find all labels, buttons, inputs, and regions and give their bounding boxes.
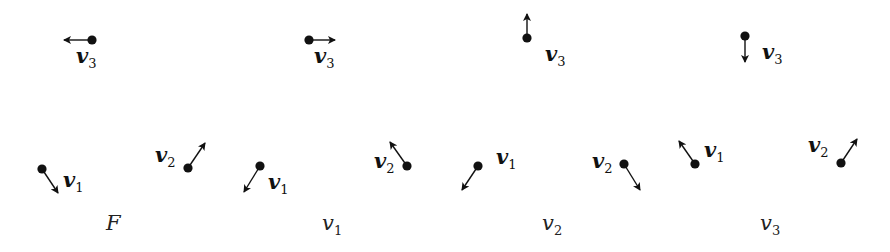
vertex-dot-icon bbox=[522, 33, 531, 42]
vertex-label: v2 bbox=[592, 148, 612, 176]
vertex-dot-icon bbox=[690, 159, 699, 168]
vertex-v2: v2 bbox=[155, 142, 205, 173]
panel-caption: v1 bbox=[322, 211, 342, 238]
vertex-v3: v3 bbox=[740, 31, 782, 67]
vertex-label: v3 bbox=[314, 43, 334, 71]
vertex-dot-icon bbox=[473, 161, 482, 170]
vertex-dot-icon bbox=[836, 158, 845, 167]
panel-caption: F bbox=[105, 211, 122, 235]
vertex-label: v1 bbox=[496, 144, 516, 172]
vertex-label: v3 bbox=[545, 41, 565, 69]
vertex-label: v2 bbox=[808, 132, 828, 160]
vertex-v3: v3 bbox=[304, 35, 335, 71]
panel-caption: v3 bbox=[760, 211, 780, 238]
vertex-v2: v2 bbox=[592, 148, 640, 190]
vertex-v2: v2 bbox=[374, 142, 412, 176]
vertex-dot-icon bbox=[304, 35, 313, 44]
panel-caption: v2 bbox=[542, 211, 562, 238]
panel-1: v1v2v3F bbox=[37, 35, 205, 235]
vertex-dot-icon bbox=[255, 161, 264, 170]
vertex-label: v1 bbox=[704, 137, 724, 165]
vertex-dot-icon bbox=[37, 164, 46, 173]
vertex-dot-icon bbox=[87, 35, 96, 44]
vertex-v1: v1 bbox=[462, 144, 516, 190]
vertex-dot-icon bbox=[183, 163, 192, 172]
panels: v1v2v3Fv1v2v3v1v1v2v3v2v1v2v3v3 bbox=[37, 14, 857, 238]
vertex-dot-icon bbox=[740, 31, 749, 40]
vertex-v1: v1 bbox=[679, 137, 724, 169]
vertex-label: v2 bbox=[155, 142, 175, 170]
vertex-v2: v2 bbox=[808, 132, 857, 168]
diagram-canvas: v1v2v3Fv1v2v3v1v1v2v3v2v1v2v3v3 bbox=[0, 0, 890, 252]
panel-2: v1v2v3v1 bbox=[244, 35, 412, 238]
vertex-label: v2 bbox=[374, 148, 394, 176]
vertex-label: v1 bbox=[268, 169, 288, 197]
panel-4: v1v2v3v3 bbox=[679, 31, 857, 238]
vertex-dot-icon bbox=[402, 161, 411, 170]
vertex-v1: v1 bbox=[37, 164, 83, 195]
vertex-dot-icon bbox=[619, 159, 628, 168]
vertex-v3: v3 bbox=[64, 35, 97, 71]
panel-3: v1v2v3v2 bbox=[462, 14, 640, 238]
vertex-v3: v3 bbox=[522, 14, 565, 69]
vertex-label: v3 bbox=[76, 43, 96, 71]
vertex-label: v1 bbox=[63, 167, 83, 195]
vertex-v1: v1 bbox=[244, 161, 288, 197]
vertex-label: v3 bbox=[762, 39, 782, 67]
